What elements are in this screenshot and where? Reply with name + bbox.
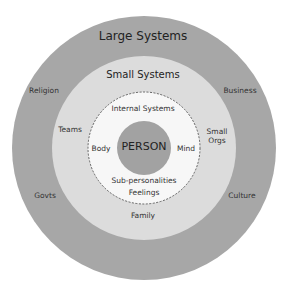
- label-business: Business: [223, 87, 256, 96]
- label-mind: Mind: [177, 145, 195, 154]
- person-label: PERSON: [121, 141, 166, 154]
- label-small-orgs: Small Orgs: [203, 128, 231, 145]
- label-feelings: Feelings: [129, 189, 160, 198]
- label-govts: Govts: [34, 192, 56, 201]
- label-family: Family: [131, 212, 155, 221]
- internal-systems-title: Internal Systems: [111, 105, 174, 114]
- large-systems-title: Large Systems: [99, 30, 188, 44]
- label-culture: Culture: [228, 192, 255, 201]
- label-body: Body: [92, 145, 111, 154]
- label-sub-personalities: Sub-personalities: [112, 177, 177, 186]
- label-religion: Religion: [29, 87, 59, 96]
- label-teams: Teams: [58, 126, 82, 135]
- small-systems-title: Small Systems: [106, 69, 179, 81]
